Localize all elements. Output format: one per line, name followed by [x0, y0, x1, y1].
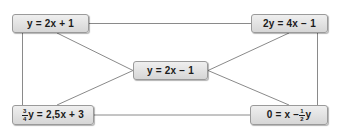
node-bottom-left-label: 3 4 y = 2,5x + 3 [22, 108, 84, 122]
fraction-one-half: 1 2 [299, 108, 305, 122]
node-bottom-right-text-tail: y [305, 110, 311, 120]
node-bottom-right-label: 0 = x − 1 2 y [267, 108, 311, 122]
node-center[interactable]: y = 2x − 1 [133, 61, 208, 80]
node-top-right-label: 2y = 4x − 1 [263, 19, 316, 29]
node-bottom-right[interactable]: 0 = x − 1 2 y [250, 105, 328, 125]
equation-diagram: y = 2x + 1 2y = 4x − 1 y = 2x − 1 3 4 y … [0, 0, 339, 135]
edge-bottomleft-center [57, 71, 133, 106]
edge-bottomright-center [208, 71, 289, 106]
fraction-denominator: 2 [299, 115, 305, 123]
edge-topright-center [208, 33, 289, 71]
node-top-right[interactable]: 2y = 4x − 1 [251, 14, 328, 33]
node-bottom-left-text: y = 2,5x + 3 [28, 110, 84, 120]
node-bottom-right-text-lead: 0 = x − [267, 110, 300, 120]
fraction-denominator: 4 [22, 115, 28, 123]
node-top-left[interactable]: y = 2x + 1 [12, 14, 89, 33]
fraction-three-quarters: 3 4 [22, 108, 28, 122]
edge-topleft-center [57, 33, 133, 71]
node-top-left-label: y = 2x + 1 [27, 19, 74, 29]
node-center-label: y = 2x − 1 [147, 66, 194, 76]
node-bottom-left[interactable]: 3 4 y = 2,5x + 3 [12, 105, 94, 125]
